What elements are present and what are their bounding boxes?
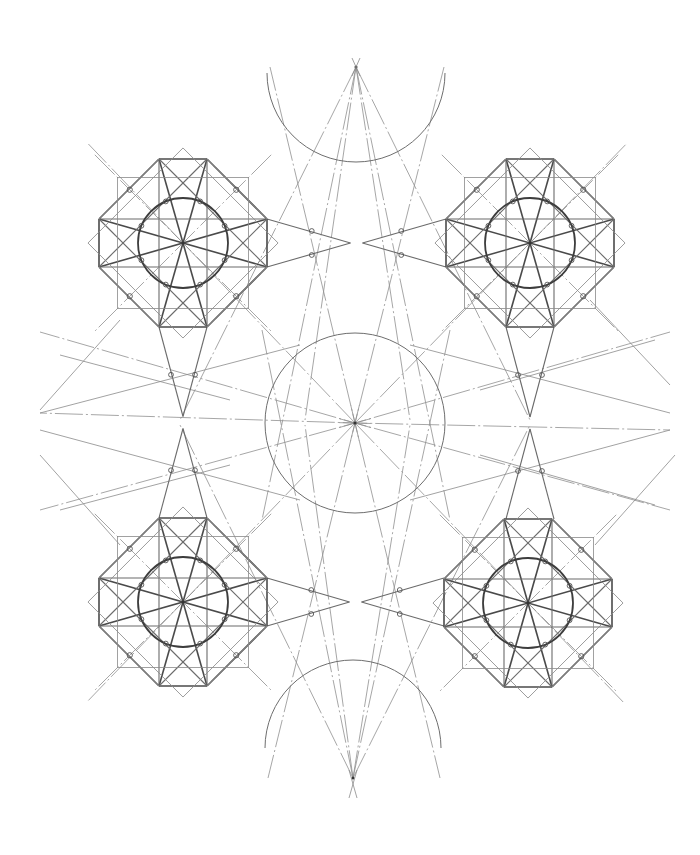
apex-fan-line: [356, 67, 450, 520]
connector-line: [159, 429, 183, 519]
apex-fan-line: [356, 67, 530, 420]
edge-construction-line: [60, 355, 230, 400]
radial-ray: [40, 413, 371, 424]
geometric-construction-drawing: [0, 0, 700, 855]
connector-line: [506, 429, 530, 519]
connector-line: [267, 602, 350, 626]
star-centre-point: [182, 601, 185, 604]
connector-line: [530, 327, 554, 417]
connector-line: [363, 243, 447, 267]
edge-construction-line: [480, 455, 655, 505]
edge-construction-line: [480, 340, 655, 390]
apex-fan-line: [262, 330, 353, 778]
radial-ray: [40, 332, 371, 428]
edge-construction-line: [40, 430, 300, 500]
radial-ray: [339, 423, 670, 430]
drawing-canvas: [0, 0, 700, 855]
connector-line: [267, 243, 351, 267]
connector-line: [363, 219, 447, 243]
connector-left: [159, 327, 207, 518]
edge-construction-line: [40, 455, 120, 545]
connector-top: [267, 219, 446, 267]
radial-ray: [339, 332, 670, 428]
connector-line: [159, 327, 183, 417]
star-top-left: [88, 148, 278, 338]
star-centre-point: [527, 602, 530, 605]
radial-construction-lines: [40, 67, 675, 778]
edge-construction-line: [40, 320, 120, 410]
connector-line: [506, 327, 530, 417]
edge-construction-line: [595, 455, 675, 545]
connector-line: [267, 578, 350, 602]
edge-construction-line: [590, 300, 670, 385]
radial-ray: [339, 419, 670, 510]
connector-line: [267, 219, 351, 243]
edge-construction-line: [40, 345, 300, 413]
connector-line: [530, 429, 554, 519]
connector-right: [506, 327, 554, 519]
radial-ray: [355, 144, 626, 423]
edge-construction-line: [60, 465, 230, 510]
star-centre-point: [182, 242, 185, 245]
radial-ray: [40, 419, 371, 510]
connector-bottom: [267, 578, 444, 626]
star-bottom-right: [433, 508, 623, 698]
hub-centre-point: [353, 421, 356, 424]
apex-fan-line: [180, 67, 356, 420]
top-arc: [267, 73, 445, 162]
star-bottom-left: [88, 507, 278, 697]
apex-fan-line: [353, 330, 450, 778]
connector-line: [362, 578, 445, 602]
radial-ray: [270, 67, 359, 441]
central-hub: [265, 333, 445, 513]
star-centre-point: [529, 242, 532, 245]
star-top-right: [435, 148, 625, 338]
connector-line: [183, 327, 207, 417]
apex-fan-line: [305, 425, 353, 778]
